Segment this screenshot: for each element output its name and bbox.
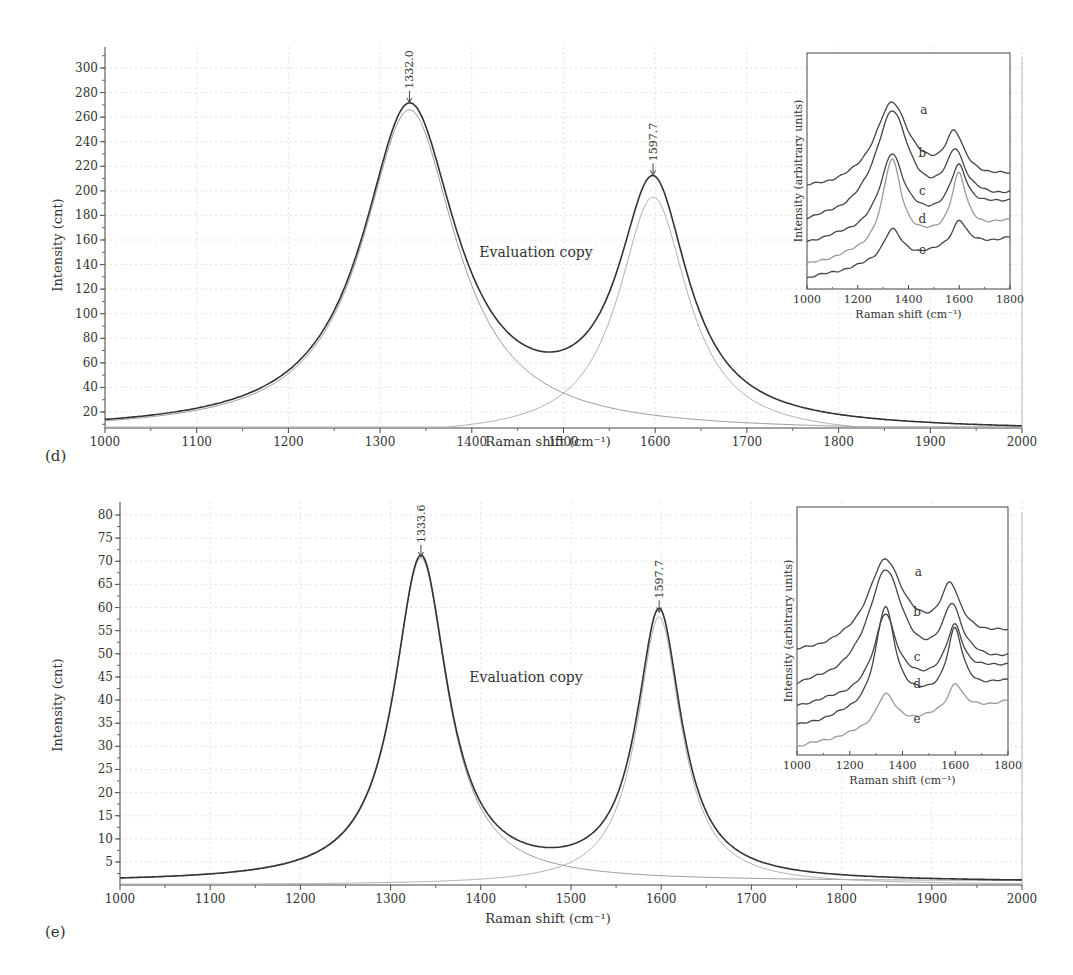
y-tick-label: 75	[98, 531, 113, 545]
x-tick-label: 1600	[646, 892, 677, 906]
y-tick-label: 260	[75, 110, 98, 124]
x-tick-label: 1500	[556, 892, 587, 906]
inset-curve-label: a	[920, 103, 927, 117]
y-axis-label-e: Intensity (cnt)	[50, 658, 65, 751]
y-tick-label: 120	[75, 282, 98, 296]
x-tick-label: 1000	[105, 892, 136, 906]
y-tick-label: 140	[75, 258, 98, 272]
x-tick-label: 1300	[365, 435, 396, 449]
x-tick-label: 1400	[466, 892, 497, 906]
y-tick-label: 200	[75, 184, 98, 198]
x-axis-label-e: Raman shift (cm⁻¹)	[485, 911, 611, 926]
y-tick-label: 80	[83, 331, 98, 345]
inset-x-tick-label: 1000	[783, 759, 811, 772]
x-tick-label: 1900	[915, 435, 946, 449]
inset-x-tick-label: 1400	[889, 759, 917, 772]
x-tick-label: 1900	[917, 892, 948, 906]
inset-x-tick-label: 1600	[945, 293, 973, 306]
inset-curve-label: c	[914, 650, 921, 664]
x-tick-label: 1100	[195, 892, 226, 906]
inset-x-tick-label: 1800	[996, 293, 1024, 306]
x-tick-label: 2000	[1007, 435, 1038, 449]
y-tick-label: 180	[75, 208, 98, 222]
y-tick-label: 10	[98, 832, 113, 846]
panel-label-d: (d)	[45, 447, 66, 465]
y-tick-label: 70	[98, 554, 113, 568]
y-tick-label: 220	[75, 159, 98, 173]
x-tick-label: 1700	[736, 892, 767, 906]
x-tick-label: 1800	[823, 435, 854, 449]
y-tick-label: 55	[98, 624, 113, 638]
inset-frame	[807, 53, 1010, 289]
inset-y-axis-label: Intensity (arbitrary units)	[782, 560, 795, 703]
inset-x-tick-label: 1600	[941, 759, 969, 772]
y-tick-label: 280	[75, 86, 98, 100]
inset-x-tick-label: 1400	[895, 293, 923, 306]
inset-x-tick-label: 1200	[836, 759, 864, 772]
y-tick-label: 300	[75, 61, 98, 75]
inset-curve-label: b	[913, 605, 921, 619]
y-tick-label: 30	[98, 739, 113, 753]
chart-d: 2040608010012014016018020022024026028030…	[0, 0, 1073, 465]
y-tick-label: 60	[98, 601, 113, 615]
inset-x-tick-label: 1000	[793, 293, 821, 306]
y-tick-label: 20	[83, 405, 98, 419]
x-tick-label: 1700	[732, 435, 763, 449]
inset-d: 10001200140016001800Raman shift (cm⁻¹)In…	[792, 53, 1024, 321]
chart-e: 5101520253035404550556065707580100011001…	[0, 465, 1073, 975]
y-tick-label: 160	[75, 233, 98, 247]
y-tick-label: 25	[98, 762, 113, 776]
inset-x-axis-label: Raman shift (cm⁻¹)	[855, 308, 961, 321]
inset-curve-label: a	[915, 565, 922, 579]
y-tick-label: 45	[98, 670, 113, 684]
x-tick-label: 1800	[826, 892, 857, 906]
inset-curve-label: e	[913, 712, 920, 726]
y-tick-label: 240	[75, 135, 98, 149]
x-tick-label: 1000	[90, 435, 121, 449]
y-tick-label: 15	[98, 809, 113, 823]
peak-label: 1333.6	[415, 504, 428, 543]
y-tick-label: 50	[98, 647, 113, 661]
panel-e: 5101520253035404550556065707580100011001…	[0, 465, 1073, 975]
x-tick-label: 2000	[1007, 892, 1038, 906]
inset-curve-label: d	[919, 212, 927, 226]
inset-x-tick-label: 1800	[994, 759, 1022, 772]
inset-curve-label: b	[919, 146, 927, 160]
inset-curve-label: c	[919, 184, 926, 198]
y-tick-label: 60	[83, 356, 98, 370]
y-tick-label: 80	[98, 508, 113, 522]
x-axis-label-d: Raman shift (cm⁻¹)	[485, 434, 611, 449]
x-tick-label: 1200	[273, 435, 304, 449]
peak-annotations-e: 1333.61597.7	[415, 504, 666, 612]
inset-y-axis-label: Intensity (arbitrary units)	[792, 100, 805, 243]
y-tick-label: 35	[98, 716, 113, 730]
inset-curve-label: d	[913, 677, 921, 691]
peak-label: 1597.7	[653, 560, 666, 599]
y-tick-label: 40	[83, 380, 98, 394]
x-tick-label: 1400	[457, 435, 488, 449]
inset-frame	[797, 507, 1008, 755]
x-tick-label: 1200	[285, 892, 316, 906]
x-tick-label: 1300	[375, 892, 406, 906]
peak-label: 1332.0	[403, 50, 416, 89]
x-tick-label: 1600	[640, 435, 671, 449]
peak-label: 1597.7	[647, 123, 660, 162]
inset-x-axis-label: Raman shift (cm⁻¹)	[849, 774, 955, 787]
panel-label-e: (e)	[45, 923, 66, 941]
panel-d: 2040608010012014016018020022024026028030…	[0, 0, 1073, 465]
y-axis-label-d: Intensity (cnt)	[50, 198, 65, 291]
y-tick-label: 40	[98, 693, 113, 707]
watermark-e: Evaluation copy	[469, 669, 583, 685]
inset-curve-label: e	[919, 243, 926, 257]
y-tick-label: 100	[75, 307, 98, 321]
y-tick-label: 20	[98, 786, 113, 800]
y-tick-label: 5	[105, 855, 113, 869]
inset-x-tick-label: 1200	[844, 293, 872, 306]
x-tick-label: 1100	[181, 435, 212, 449]
inset-e: 10001200140016001800Raman shift (cm⁻¹)In…	[782, 507, 1022, 787]
peak-annotations-d: 1332.01597.7	[403, 50, 660, 175]
watermark-d: Evaluation copy	[479, 244, 593, 260]
y-tick-label: 65	[98, 577, 113, 591]
